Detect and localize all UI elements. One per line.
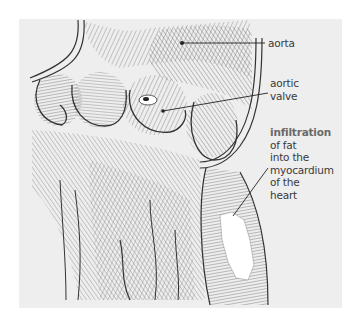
infiltration-heading: infiltration <box>270 126 334 139</box>
infiltration-line-2: into the <box>270 151 334 164</box>
aortic-valve-label: aortic valve <box>270 77 299 102</box>
aortic-valve-label-line-2: valve <box>270 90 299 103</box>
myocardium <box>32 130 205 300</box>
infiltration-line-4: of the <box>270 176 334 189</box>
infiltration-line-1: of fat <box>270 139 334 152</box>
septum-with-fat <box>201 168 268 305</box>
aorta-pointer-dot <box>180 41 184 45</box>
infiltration-line-5: heart <box>270 189 334 202</box>
infiltration-line-3: myocardium <box>270 164 334 177</box>
aorta-label-text: aorta <box>268 37 295 49</box>
infiltration-label: infiltration of fat into the myocardium … <box>270 126 334 201</box>
aorta-label: aorta <box>268 37 295 50</box>
valve-pointer-dot <box>161 109 165 113</box>
aortic-valve-label-line-1: aortic <box>270 77 299 90</box>
